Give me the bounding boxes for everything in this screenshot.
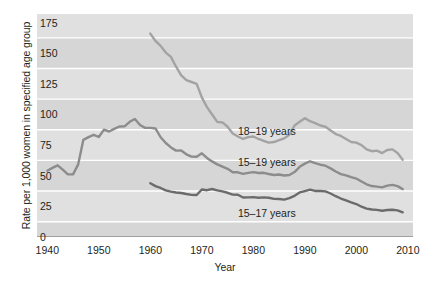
chart-svg	[37, 14, 413, 237]
y-tick-label: 50	[40, 170, 68, 182]
x-axis-label: Year	[37, 261, 413, 273]
y-tick-label: 0	[40, 231, 68, 243]
x-tick-label: 1950	[87, 244, 110, 256]
x-tick-label: 2000	[345, 244, 368, 256]
series-label-0: 18–19 years	[238, 125, 296, 137]
plot-area: 0255075100125150175194019501960197019801…	[37, 14, 413, 237]
x-tick-label: 1990	[293, 244, 316, 256]
x-tick-label: 1960	[139, 244, 162, 256]
x-tick-label: 1980	[242, 244, 265, 256]
y-tick-label: 150	[40, 47, 68, 59]
y-axis-label: Rate per 1,000 women in specified age gr…	[18, 14, 34, 237]
y-tick-label: 125	[40, 78, 68, 90]
series-label-1: 15–19 years	[238, 156, 296, 168]
y-tick-label: 75	[40, 139, 68, 151]
y-tick-label: 25	[40, 200, 68, 212]
x-tick-label: 2010	[396, 244, 419, 256]
teen-birth-rate-line-chart: Rate per 1,000 women in specified age gr…	[0, 0, 434, 283]
x-tick-label: 1970	[190, 244, 213, 256]
series-label-2: 15–17 years	[238, 207, 296, 219]
y-tick-label: 175	[40, 17, 68, 29]
y-tick-label: 100	[40, 108, 68, 120]
x-tick-label: 1940	[36, 244, 59, 256]
